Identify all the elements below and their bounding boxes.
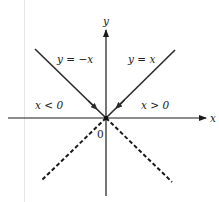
equation-label-x: y = x	[127, 53, 155, 65]
equation-label-neg-x: y = −x	[56, 53, 93, 65]
y-axis-label: y	[102, 15, 110, 27]
x-axis-label: x	[210, 112, 216, 124]
origin-label: 0	[97, 128, 104, 140]
region-label-left: x < 0	[35, 99, 63, 111]
graph-canvas: y x 0 y = −x y = x x < 0 x > 0	[0, 0, 219, 202]
origin-point	[104, 116, 108, 120]
region-label-right: x > 0	[141, 99, 169, 111]
dashed-line-lower-right	[106, 118, 172, 182]
